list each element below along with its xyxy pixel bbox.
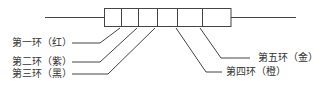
leader-band5	[200, 28, 250, 58]
label-band3: 第三环（黑）	[12, 68, 72, 80]
resistor-body	[105, 9, 232, 27]
label-band2: 第二环（紫）	[12, 56, 72, 68]
leader-band3	[72, 28, 155, 74]
leader-band2	[72, 28, 137, 62]
label-band1: 第一环（红）	[12, 37, 72, 49]
label-band4: 第四环（橙）	[226, 66, 286, 78]
leader-band1	[72, 28, 120, 43]
label-band5: 第五环（金）	[258, 52, 318, 64]
